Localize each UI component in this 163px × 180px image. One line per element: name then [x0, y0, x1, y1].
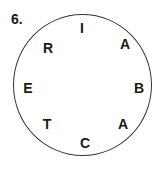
letter-t: T [43, 117, 52, 131]
letter-b: B [134, 81, 144, 95]
letter-c: C [80, 136, 90, 150]
letter-a-top: A [120, 37, 130, 51]
puzzle-number: 6. [11, 12, 23, 26]
letter-a-bottom: A [118, 117, 128, 131]
letter-i: I [80, 21, 84, 35]
letter-r: R [43, 41, 53, 55]
letter-e: E [23, 81, 32, 95]
